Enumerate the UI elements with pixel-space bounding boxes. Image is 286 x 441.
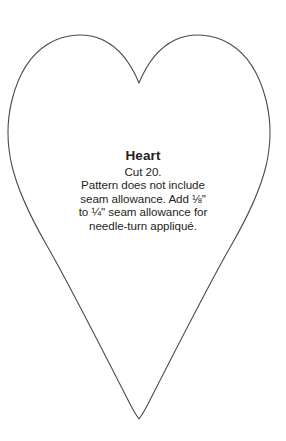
pattern-title: Heart	[0, 148, 286, 164]
pattern-label-block: Heart Cut 20. Pattern does not include s…	[0, 148, 286, 233]
pattern-cut-count: Cut 20.	[0, 165, 286, 179]
pattern-note-line-4: needle-turn appliqué.	[0, 219, 286, 233]
pattern-sheet: Heart Cut 20. Pattern does not include s…	[0, 0, 286, 441]
pattern-note-line-2: seam allowance. Add ⅛"	[0, 192, 286, 206]
pattern-note-line-1: Pattern does not include	[0, 178, 286, 192]
pattern-note-line-3: to ¼" seam allowance for	[0, 205, 286, 219]
